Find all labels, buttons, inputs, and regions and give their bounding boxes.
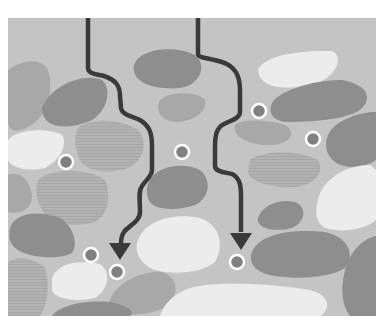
particle-icon — [110, 265, 124, 279]
particle-icon — [306, 132, 320, 146]
grain-striped — [75, 121, 143, 172]
particle-icon — [175, 145, 189, 159]
particle-icon — [252, 104, 266, 118]
grain-dark — [134, 49, 202, 88]
particle-icon — [230, 255, 244, 269]
grain-striped — [8, 258, 48, 316]
diagram-canvas — [0, 0, 389, 331]
grain-striped — [248, 153, 320, 188]
particle-icon — [84, 248, 98, 262]
porous-media-flow-diagram — [0, 0, 389, 331]
grain-light — [52, 262, 107, 300]
particle-icon — [59, 155, 73, 169]
